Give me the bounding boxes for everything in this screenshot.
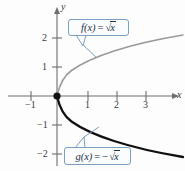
f-callout-function: f(x) xyxy=(81,22,96,33)
y-tick-label-neg1: −1 xyxy=(37,120,48,130)
y-tick-label-2: 2 xyxy=(42,33,47,43)
y-tick-label-1: 1 xyxy=(42,62,47,72)
f-callout-equals: = xyxy=(96,22,106,33)
f-curve xyxy=(57,35,183,96)
origin-dot xyxy=(53,92,60,99)
f-callout-tail xyxy=(76,35,86,46)
f-callout-radical: √x xyxy=(106,21,116,33)
y-axis-label: y xyxy=(61,2,65,12)
g-callout-radical: √x xyxy=(109,150,119,162)
g-callout: g(x) = − √x xyxy=(64,147,131,165)
y-tick-label-neg2: −2 xyxy=(37,149,48,159)
x-tick-label-neg1: −1 xyxy=(25,100,36,110)
f-radicand: x xyxy=(110,21,116,33)
x-axis-label: x xyxy=(177,90,181,100)
g-callout-sign: − xyxy=(102,151,109,162)
x-tick-label-3: 3 xyxy=(143,100,148,110)
graph-figure: −1 1 2 3 2 1 −1 −2 y x f(x) = √x g(x) = … xyxy=(0,0,185,171)
x-tick-label-1: 1 xyxy=(85,100,90,110)
f-callout: f(x) = √x xyxy=(68,19,129,36)
g-callout-equals: = xyxy=(92,151,102,162)
g-radicand: x xyxy=(114,150,120,162)
x-tick-label-2: 2 xyxy=(114,100,119,110)
g-callout-function: g(x) xyxy=(75,151,92,162)
